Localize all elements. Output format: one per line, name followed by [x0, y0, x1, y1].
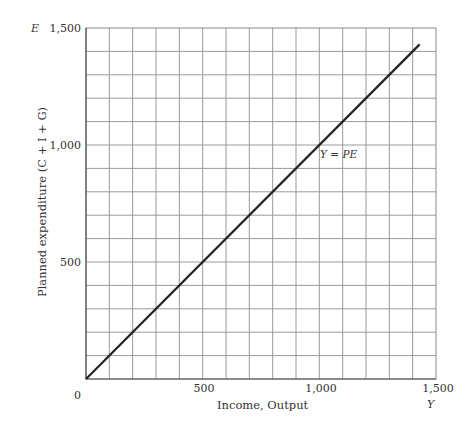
- x-tick-1500: 1,500: [413, 382, 463, 395]
- line-label: Y = PE: [320, 148, 357, 160]
- x-tick-500: 500: [179, 382, 229, 395]
- origin-label: 0: [74, 389, 81, 402]
- chart-plot: [0, 0, 471, 431]
- x-tick-1000: 1,000: [296, 382, 346, 395]
- x-axis-label: Income, Output: [217, 398, 308, 412]
- y-axis-label: Planned expenditure (C + I + G): [35, 102, 49, 302]
- y-tick-1500: 1,500: [31, 22, 81, 35]
- series-line: [86, 44, 420, 379]
- x-axis-symbol: Y: [427, 398, 434, 411]
